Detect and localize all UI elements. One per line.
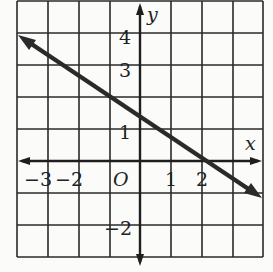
y-tick-neg2: −2 <box>104 217 132 239</box>
y-tick-1: 1 <box>119 121 131 143</box>
x-tick-neg2: −2 <box>55 168 83 190</box>
x-tick-neg3: −3 <box>24 168 52 190</box>
x-axis-label: x <box>245 132 256 154</box>
coordinate-plane: y x O 4 3 1 −2 −3 −2 1 2 <box>0 0 273 272</box>
x-axis-arrow-right-icon <box>250 157 262 165</box>
x-tick-1: 1 <box>165 168 177 190</box>
y-axis-arrow-up-icon <box>136 3 144 15</box>
axes <box>18 3 262 266</box>
y-tick-4: 4 <box>119 26 131 48</box>
y-tick-3: 3 <box>119 59 131 81</box>
x-tick-2: 2 <box>196 168 208 190</box>
y-axis-arrow-down-icon <box>136 254 144 266</box>
y-axis-label: y <box>146 3 158 25</box>
x-axis-arrow-left-icon <box>18 157 30 165</box>
origin-label: O <box>113 168 129 190</box>
